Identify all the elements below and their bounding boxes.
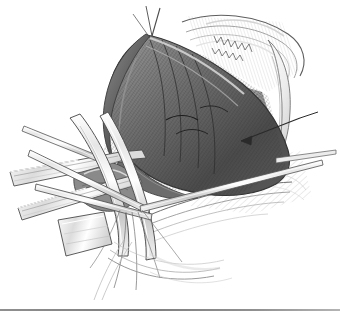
figure-caption <box>0 312 340 316</box>
figure-page <box>0 0 340 316</box>
illustration-canvas <box>0 0 340 300</box>
figure-divider-rule <box>0 309 340 311</box>
surgical-illustration <box>0 0 340 300</box>
